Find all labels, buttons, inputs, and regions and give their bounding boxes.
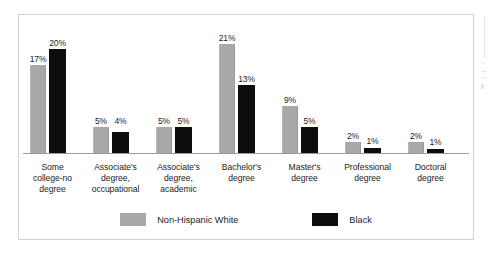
- bar-wrapper: 4%: [112, 132, 129, 153]
- bar-white-series[interactable]: [345, 142, 361, 153]
- legend-item-non-hispanic-white[interactable]: Non-Hispanic White: [120, 213, 238, 226]
- bar-wrapper: 5%: [175, 127, 192, 153]
- bar-value-label: 5%: [177, 116, 189, 126]
- bar-white-series[interactable]: [219, 44, 235, 153]
- category-label-line: degree: [275, 173, 334, 184]
- legend-label: Black: [349, 215, 371, 225]
- bar-wrapper: 1%: [427, 149, 444, 153]
- category-label-line: Bachelor's: [212, 162, 271, 173]
- bar-value-label: 2%: [347, 131, 359, 141]
- bar-group: 17% 20% Some college-no degree: [23, 15, 82, 239]
- category-label-line: Some: [23, 162, 82, 173]
- bar-black-series[interactable]: [112, 132, 129, 153]
- legend-label: Non-Hispanic White: [157, 215, 238, 225]
- bar-white-series[interactable]: [30, 65, 46, 153]
- bar-value-label: 21%: [219, 33, 236, 43]
- bar-group-bars: 21% 13%: [212, 15, 271, 153]
- bar-value-label: 1%: [366, 136, 378, 146]
- bar-value-label: 13%: [238, 74, 255, 84]
- bar-wrapper: 21%: [219, 44, 235, 153]
- category-label-line: degree: [212, 173, 271, 184]
- category-label-line: Associate's: [149, 162, 208, 173]
- bar-value-label: 17%: [30, 54, 47, 64]
- legend-swatch-icon: [312, 213, 338, 226]
- plot-area: 17% 20% Some college-no degree: [19, 15, 473, 239]
- category-label: Bachelor's degree: [212, 162, 271, 184]
- legend-item-black[interactable]: Black: [312, 213, 371, 226]
- bar-white-series[interactable]: [156, 127, 172, 153]
- category-label-line: Associate's: [86, 162, 145, 173]
- bar-group-bars: 2% 1%: [338, 15, 397, 153]
- bar-wrapper: 1%: [364, 148, 381, 153]
- scan-artifact: [481, 71, 486, 72]
- bar-value-label: 1%: [429, 137, 441, 147]
- bar-group: 9% 5% Master's degree: [275, 15, 334, 239]
- category-label-line: academic: [149, 184, 208, 195]
- bar-value-label: 5%: [303, 116, 315, 126]
- bar-value-label: 2%: [410, 131, 422, 141]
- category-label-line: Doctoral: [401, 162, 460, 173]
- bar-wrapper: 5%: [93, 127, 109, 153]
- scan-artifact: [481, 62, 485, 63]
- category-label: Associate's degree, academic: [149, 162, 208, 196]
- bar-value-label: 5%: [158, 116, 170, 126]
- bar-black-series[interactable]: [49, 49, 66, 153]
- bar-wrapper: 2%: [345, 142, 361, 153]
- bar-black-series[interactable]: [238, 85, 255, 153]
- bar-group: 5% 4% Associate's degree, occupational: [86, 15, 145, 239]
- scan-artifact: [484, 16, 485, 58]
- category-label-line: Master's: [275, 162, 334, 173]
- category-label-line: degree: [338, 173, 397, 184]
- bar-white-series[interactable]: [282, 106, 298, 153]
- bar-group: 21% 13% Bachelor's degree: [212, 15, 271, 239]
- bar-group-bars: 9% 5%: [275, 15, 334, 153]
- bar-group-bars: 2% 1%: [401, 15, 460, 153]
- bar-wrapper: 9%: [282, 106, 298, 153]
- bar-group-bars: 5% 4%: [86, 15, 145, 153]
- scan-artifact: [481, 84, 484, 89]
- bar-group: 5% 5% Associate's degree, academic: [149, 15, 208, 239]
- category-label-line: degree: [401, 173, 460, 184]
- bar-white-series[interactable]: [408, 142, 424, 153]
- bar-wrapper: 5%: [156, 127, 172, 153]
- bar-value-label: 20%: [49, 38, 66, 48]
- category-label: Professional degree: [338, 162, 397, 184]
- bar-value-label: 9%: [284, 95, 296, 105]
- category-label-line: degree,: [149, 173, 208, 184]
- category-label-line: degree,: [86, 173, 145, 184]
- category-label: Doctoral degree: [401, 162, 460, 184]
- bar-black-series[interactable]: [175, 127, 192, 153]
- chart-page: 17% 20% Some college-no degree: [0, 0, 492, 258]
- category-label-line: degree: [23, 184, 82, 195]
- chart-frame: 17% 20% Some college-no degree: [18, 14, 474, 240]
- bar-wrapper: 13%: [238, 85, 255, 153]
- bar-group: 2% 1% Doctoral degree: [401, 15, 460, 239]
- category-label: Some college-no degree: [23, 162, 82, 196]
- bar-black-series[interactable]: [301, 127, 318, 153]
- bar-wrapper: 20%: [49, 49, 66, 153]
- category-label: Master's degree: [275, 162, 334, 184]
- category-label-line: occupational: [86, 184, 145, 195]
- bar-black-series[interactable]: [364, 148, 381, 153]
- scan-artifact: [481, 77, 485, 78]
- bar-wrapper: 17%: [30, 65, 46, 153]
- bar-group-bars: 5% 5%: [149, 15, 208, 153]
- bar-black-series[interactable]: [427, 149, 444, 153]
- bar-group-bars: 17% 20%: [23, 15, 82, 153]
- bar-wrapper: 5%: [301, 127, 318, 153]
- bar-wrapper: 2%: [408, 142, 424, 153]
- category-label-line: Professional: [338, 162, 397, 173]
- legend-swatch-icon: [120, 213, 146, 226]
- category-label: Associate's degree, occupational: [86, 162, 145, 196]
- bar-value-label: 5%: [95, 116, 107, 126]
- bar-white-series[interactable]: [93, 127, 109, 153]
- bar-value-label: 4%: [114, 116, 126, 126]
- bar-group: 2% 1% Professional degree: [338, 15, 397, 239]
- category-label-line: college-no: [23, 173, 82, 184]
- chart-legend: Non-Hispanic White Black: [19, 213, 473, 226]
